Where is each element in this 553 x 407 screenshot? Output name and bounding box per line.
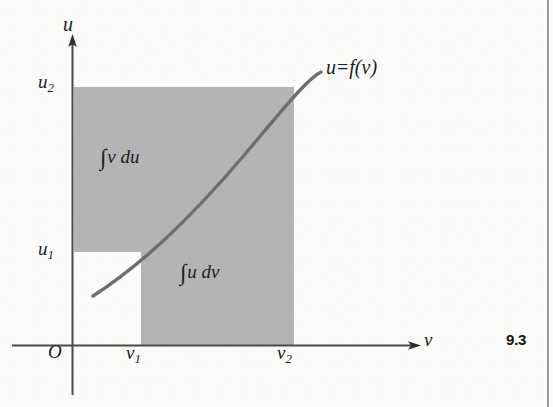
page-edge-line xyxy=(547,0,549,407)
tick-label-u1: u1 xyxy=(38,239,54,262)
region-label-integral-v-du: ∫v du xyxy=(100,146,140,169)
region-label-integral-u-dv-text: u dv xyxy=(187,261,219,282)
tick-label-u1-sub: 1 xyxy=(48,247,54,262)
tick-label-u2-sub: 2 xyxy=(48,80,54,95)
region-label-integral-v-du-text: v du xyxy=(107,146,139,167)
tick-label-u1-base: u xyxy=(38,238,48,259)
figure-page: u v O u2 u1 v1 v2 u=f(v) ∫v du ∫u dv 9.3 xyxy=(0,0,553,407)
axis-label-u: u xyxy=(63,14,73,34)
axis-label-v: v xyxy=(424,330,432,349)
region-label-integral-u-dv: ∫u dv xyxy=(180,261,220,284)
curve-equation-operator: = xyxy=(336,56,349,78)
shaded-regions xyxy=(74,87,294,345)
tick-label-v2: v2 xyxy=(277,343,292,366)
tick-label-v1: v1 xyxy=(126,343,141,366)
origin-label: O xyxy=(48,342,62,361)
tick-label-v2-sub: 2 xyxy=(285,351,291,366)
curve-equation-rhs: f(v) xyxy=(349,56,377,78)
tick-label-u2-base: u xyxy=(38,71,48,92)
figure-number: 9.3 xyxy=(506,331,526,348)
curve-equation-label: u=f(v) xyxy=(326,57,377,77)
tick-label-v1-sub: 1 xyxy=(134,351,140,366)
tick-label-u2: u2 xyxy=(38,72,54,95)
curve-equation-lhs: u xyxy=(326,56,336,78)
